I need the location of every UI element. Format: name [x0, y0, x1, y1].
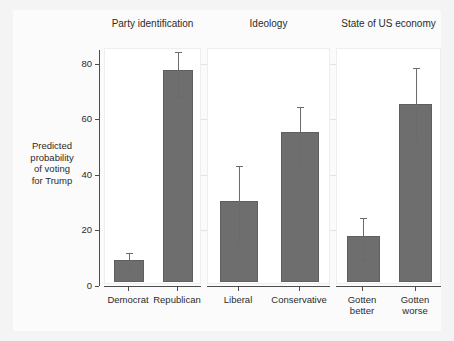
- x-axis-line: [207, 286, 330, 287]
- panel-title: Ideology: [207, 18, 330, 29]
- error-bar-cap-upper: [360, 218, 367, 219]
- error-bar-cap-lower: [413, 143, 420, 144]
- error-bar-cap-lower: [297, 166, 304, 167]
- y-tick-label: 80: [68, 58, 92, 69]
- y-tick-label: 40: [68, 169, 92, 180]
- x-tick-label: Republican: [153, 294, 201, 305]
- x-tick-mark: [299, 287, 300, 291]
- y-tick-label: 60: [68, 113, 92, 124]
- error-bar-cap-lower: [175, 96, 182, 97]
- error-bar-cap-lower: [126, 273, 133, 274]
- x-tick-label: Liberal: [224, 294, 253, 305]
- chart-panel: Party identification: [104, 34, 201, 284]
- chart-panel: Ideology: [207, 34, 330, 284]
- y-tick-label: 0: [68, 280, 92, 291]
- error-bar-cap-upper: [175, 52, 182, 53]
- y-tick-mark: [95, 286, 99, 287]
- x-tick-label: Gotten better: [348, 294, 377, 316]
- bar[interactable]: [163, 70, 193, 282]
- x-axis-line: [336, 286, 441, 287]
- error-bar-cap-lower: [236, 243, 243, 244]
- x-axis-line: [104, 286, 201, 287]
- error-bar-cap-upper: [413, 68, 420, 69]
- chart-figure: Predicted probability of voting for Trum…: [0, 0, 454, 341]
- panel-plot-area: [336, 48, 441, 284]
- x-tick-mark: [238, 287, 239, 291]
- x-tick-label: Democrat: [107, 294, 148, 305]
- x-tick-mark: [415, 287, 416, 291]
- error-bar-line: [300, 107, 301, 166]
- y-tick-mark: [95, 64, 99, 65]
- x-tick-label: Conservative: [271, 294, 326, 305]
- error-bar-cap-upper: [297, 107, 304, 108]
- x-tick-mark: [177, 287, 178, 291]
- error-bar-cap-upper: [126, 253, 133, 254]
- error-bar-cap-lower: [360, 260, 367, 261]
- error-bar-cap-upper: [236, 166, 243, 167]
- panel-title: Party identification: [104, 18, 201, 29]
- error-bar-line: [239, 166, 240, 243]
- panel-plot-area: [207, 48, 330, 284]
- y-tick-mark: [95, 175, 99, 176]
- error-bar-line: [129, 253, 130, 272]
- error-bar-line: [416, 68, 417, 143]
- y-axis-line: [99, 50, 100, 286]
- error-bar-line: [363, 218, 364, 260]
- chart-panel: State of US economy: [336, 34, 441, 284]
- y-tick-mark: [95, 119, 99, 120]
- y-tick-label: 20: [68, 224, 92, 235]
- error-bar-line: [178, 52, 179, 96]
- panel-title: State of US economy: [336, 18, 441, 29]
- x-tick-label: Gotten worse: [401, 294, 430, 316]
- x-tick-mark: [128, 287, 129, 291]
- x-tick-mark: [362, 287, 363, 291]
- y-tick-mark: [95, 230, 99, 231]
- panel-plot-area: [104, 48, 201, 284]
